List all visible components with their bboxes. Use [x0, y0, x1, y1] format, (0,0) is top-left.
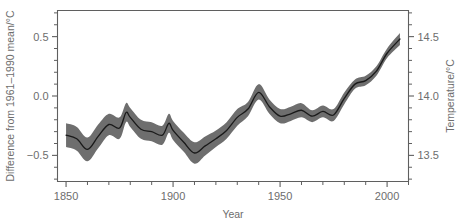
y-axis-title-left: Difference from 1961–1990 mean/°C — [4, 10, 16, 181]
y-tick-label-right: 14.0 — [418, 90, 439, 102]
y-tick-label-left: −0.5 — [27, 149, 49, 161]
x-tick-label: 2000 — [375, 190, 399, 202]
y-axis-title-right: Temperature/°C — [444, 59, 456, 133]
temperature-anomaly-chart: 1850190019502000Year−0.50.00.5Difference… — [0, 0, 467, 224]
chart-figure: 1850190019502000Year−0.50.00.5Difference… — [0, 0, 467, 224]
x-axis-title: Year — [222, 208, 244, 220]
x-tick-label: 1900 — [161, 190, 185, 202]
y-axis-right: 13.514.014.5 — [409, 13, 439, 179]
y-tick-label-right: 14.5 — [418, 31, 439, 43]
x-axis: 1850190019502000 — [54, 182, 409, 202]
plot-area — [66, 33, 400, 164]
plot-frame — [58, 11, 409, 182]
x-tick-label: 1950 — [268, 190, 292, 202]
x-tick-label: 1850 — [54, 190, 78, 202]
y-tick-label-right: 13.5 — [418, 149, 439, 161]
y-tick-label-left: 0.0 — [33, 90, 48, 102]
y-tick-label-left: 0.5 — [33, 31, 48, 43]
uncertainty-band — [66, 33, 400, 164]
y-axis-left: −0.50.00.5 — [27, 13, 58, 179]
